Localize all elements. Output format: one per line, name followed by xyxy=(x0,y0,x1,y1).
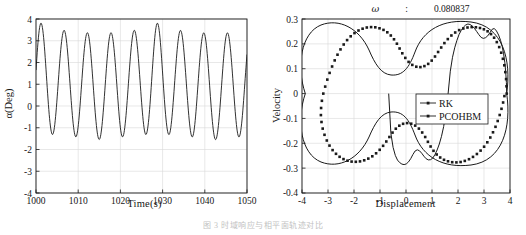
panel-phase-portrait: 0.3 0.2 0.1 0 -0.1 -0.2 -0.3 -0.4 -4 -3 … xyxy=(263,0,526,215)
legend-label-pcohbm: PCOHBM xyxy=(439,111,481,122)
y-tick-label: -0.3 xyxy=(283,164,298,174)
y-tick-labels: 0.3 0.2 0.1 0 -0.1 -0.2 -0.3 -0.4 xyxy=(283,15,298,199)
y-tick-label: -2 xyxy=(24,145,32,155)
x-axis-title: Time(s) xyxy=(0,198,263,209)
y-axis-title-text: Velocity xyxy=(271,88,282,123)
plot-title-value: 0.080837 xyxy=(434,4,470,14)
y-axis-title: Velocity xyxy=(271,82,282,130)
y-tick-label: 0 xyxy=(293,89,298,99)
panel-time-history: 4 3 2 1 0 -1 -2 -3 -4 1000 1010 1020 103… xyxy=(0,0,263,215)
y-axis-title: α(Deg) xyxy=(3,80,14,128)
y-tick-label: -3 xyxy=(24,167,32,177)
y-tick-label: 0 xyxy=(27,102,32,112)
y-tick-label: -0.2 xyxy=(283,139,298,149)
phase-portrait-plot: 0.3 0.2 0.1 0 -0.1 -0.2 -0.3 -0.4 -4 -3 … xyxy=(263,0,526,215)
y-tick-label: -0.4 xyxy=(283,188,298,198)
y-tick-label: 1 xyxy=(27,80,32,90)
legend-marker-rk xyxy=(427,102,430,105)
y-tick-label: 0.1 xyxy=(286,64,298,74)
y-tick-label: 0.3 xyxy=(286,15,298,25)
y-tick-label: 0.2 xyxy=(286,39,298,49)
figure-caption: 图 3 时域响应与相平面轨迹对比 xyxy=(0,219,526,230)
omega-symbol: ω xyxy=(371,3,379,14)
y-tick-label: 4 xyxy=(27,15,32,25)
x-axis-title-text: Displacement xyxy=(375,198,435,209)
legend-marker-pcohbm xyxy=(427,115,430,118)
x-axis-title-text: Time(s) xyxy=(127,198,161,209)
plot-title: ω:0.080837 xyxy=(263,3,526,14)
y-tick-label: 2 xyxy=(27,58,32,68)
plot-title-value-prefix: : xyxy=(405,4,408,14)
time-history-plot: 4 3 2 1 0 -1 -2 -3 -4 1000 1010 1020 103… xyxy=(0,0,263,215)
figure-two-panel-plot: 4 3 2 1 0 -1 -2 -3 -4 1000 1010 1020 103… xyxy=(0,0,526,235)
legend[interactable]: RK PCOHBM xyxy=(416,94,488,124)
y-axis-title-text: α(Deg) xyxy=(3,89,14,119)
y-tick-label: -1 xyxy=(24,123,32,133)
legend-label-rk: RK xyxy=(439,98,454,109)
x-axis-title: Displacement xyxy=(263,198,526,209)
y-tick-labels: 4 3 2 1 0 -1 -2 -3 -4 xyxy=(24,15,32,199)
y-tick-label: -0.1 xyxy=(283,114,298,124)
y-tick-label: 3 xyxy=(27,36,32,46)
